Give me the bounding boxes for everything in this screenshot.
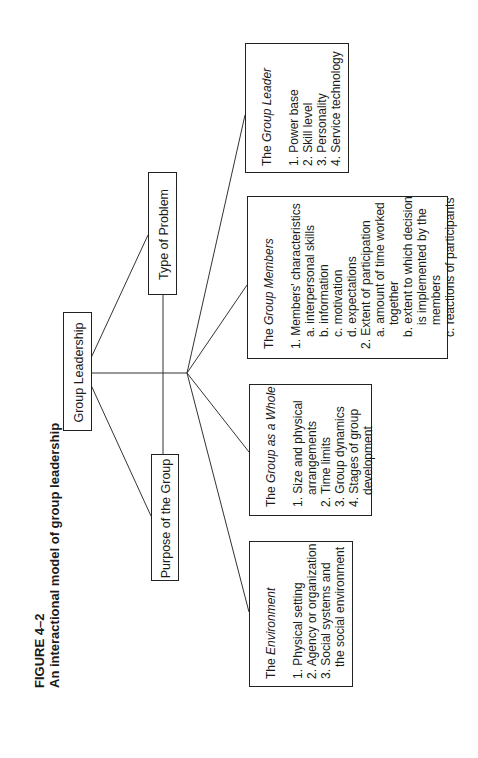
list-item: 2. Extent of participation — [359, 199, 373, 349]
edge-root-type — [91, 235, 148, 358]
list-item: 1. Physical setting — [291, 544, 305, 679]
detail-box-group-leader: The Group Leader 1. Power base 2. Skill … — [245, 43, 349, 173]
edge-hub-whole — [187, 373, 249, 452]
list-item: 3. Group dynamics — [333, 387, 347, 507]
list-item: 2. Time limits — [319, 387, 333, 507]
list-item: development — [361, 387, 375, 507]
list-item: 4. Stages of group — [347, 387, 361, 507]
detail-box-group-as-whole: The Group as a Whole 1. Size and physica… — [249, 384, 372, 516]
node-type-of-problem: Type of Problem — [148, 172, 177, 295]
detail-box-group-members: The Group Members 1. Members' characteri… — [247, 196, 448, 359]
list-item: a. interpersonal skills — [303, 199, 317, 349]
detail-title: The Group Members — [262, 199, 277, 349]
detail-list: 1. Members' characteristics a. interpers… — [289, 199, 457, 349]
list-item: b. extent to which decision — [401, 199, 415, 349]
list-item: c. motivation — [331, 199, 345, 349]
detail-box-environment: The Environment 1. Physical setting 2. A… — [249, 541, 353, 687]
figure-number: FIGURE 4–2 — [32, 328, 47, 688]
edge-hub-environment — [187, 373, 249, 612]
list-item: members — [429, 199, 443, 349]
edge-root-purpose — [91, 385, 151, 516]
list-item: 4. Service technology — [329, 46, 343, 166]
list-item: d. expectations — [345, 199, 359, 349]
node-label: Type of Problem — [149, 173, 178, 296]
figure-title: An interactional model of group leadersh… — [47, 328, 62, 688]
list-item: the social environment — [333, 544, 347, 679]
detail-title: The Group as a Whole — [264, 387, 279, 507]
list-item: arrangements — [305, 387, 319, 507]
list-item: a. amount of time worked — [373, 199, 387, 349]
node-label: Group Leadership — [64, 313, 93, 432]
edge-hub-leader — [187, 115, 245, 373]
list-item: 2. Skill level — [301, 46, 315, 166]
list-item: c. reactions of participants — [443, 199, 457, 349]
list-item: b. information — [317, 199, 331, 349]
list-item: 1. Power base — [287, 46, 301, 166]
detail-title: The Environment — [264, 544, 279, 679]
list-item: 2. Agency or organization — [305, 544, 319, 679]
detail-list: 1. Physical setting 2. Agency or organiz… — [291, 544, 347, 679]
node-label: Purpose of the Group — [152, 455, 180, 582]
list-item: together — [387, 199, 401, 349]
detail-list: 1. Power base 2. Skill level 3. Personal… — [287, 46, 343, 166]
edge-hub-members — [187, 285, 247, 373]
list-item: 1. Members' characteristics — [289, 199, 303, 349]
detail-list: 1. Size and physical arrangements 2. Tim… — [291, 387, 375, 507]
list-item: 3. Social systems and — [319, 544, 333, 679]
figure-caption: FIGURE 4–2 An interactional model of gro… — [32, 328, 62, 688]
list-item: is implemented by the — [415, 199, 429, 349]
node-purpose-of-group: Purpose of the Group — [151, 454, 179, 581]
detail-title: The Group Leader — [260, 46, 275, 166]
node-group-leadership: Group Leadership — [63, 312, 92, 431]
list-item: 3. Personality — [315, 46, 329, 166]
list-item: 1. Size and physical — [291, 387, 305, 507]
